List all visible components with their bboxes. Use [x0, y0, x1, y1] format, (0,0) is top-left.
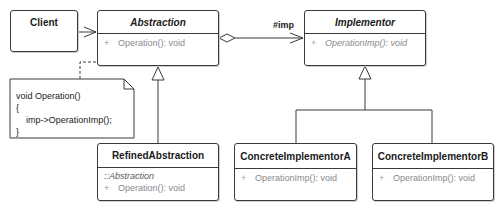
class-name: Implementor	[305, 11, 425, 34]
aggregation-diamond-icon	[219, 34, 235, 42]
class-members: ::Abstraction +Operation(): void	[98, 168, 218, 197]
visibility-public: +	[241, 172, 255, 184]
member-operation-imp: +OperationImp(): void	[241, 172, 350, 184]
class-members: +OperationImp(): void	[305, 34, 425, 52]
note-line: void Operation()	[16, 90, 112, 102]
member-operation: +Operation(): void	[104, 182, 212, 194]
member-signature: OperationImp(): void	[325, 38, 407, 48]
class-name: ConcreteImplementorA	[235, 144, 356, 169]
note-text: void Operation() { imp->OperationImp(); …	[16, 90, 112, 138]
class-concrete-implementor-a[interactable]: ConcreteImplementorA +OperationImp(): vo…	[234, 143, 357, 201]
class-members: +Operation(): void	[98, 34, 218, 52]
generalization-concrete-implementors	[296, 66, 432, 143]
member-operation-imp: +OperationImp(): void	[379, 172, 487, 184]
class-refined-abstraction[interactable]: RefinedAbstraction ::Abstraction +Operat…	[97, 143, 219, 201]
inherited-from-label: ::Abstraction	[104, 170, 212, 182]
member-signature: Operation(): void	[118, 183, 185, 193]
visibility-public: +	[104, 37, 118, 49]
note-anchor-line	[80, 62, 96, 79]
note-line: {	[16, 102, 112, 114]
hollow-triangle-icon	[359, 66, 371, 79]
class-name: Client	[11, 11, 77, 51]
role-label-imp: #imp	[273, 20, 294, 30]
class-members: +OperationImp(): void	[373, 169, 493, 187]
note-line: }	[16, 126, 112, 138]
class-name: RefinedAbstraction	[98, 144, 218, 168]
uml-diagram-canvas: #imp Client Abstraction +Operation(): vo…	[0, 0, 501, 209]
note-line: imp->OperationImp();	[16, 114, 112, 126]
visibility-public: +	[311, 37, 325, 49]
aggregation-abstraction-implementor	[219, 33, 303, 43]
hollow-triangle-icon	[152, 67, 164, 80]
class-concrete-implementor-b[interactable]: ConcreteImplementorB +OperationImp(): vo…	[372, 143, 494, 201]
member-signature: OperationImp(): void	[393, 173, 475, 183]
association-client-abstraction	[78, 27, 96, 37]
visibility-public: +	[379, 172, 393, 184]
generalization-refined-abstraction	[152, 67, 164, 143]
member-signature: Operation(): void	[118, 38, 185, 48]
class-name: ConcreteImplementorB	[373, 144, 493, 169]
class-abstraction[interactable]: Abstraction +Operation(): void	[97, 10, 219, 66]
class-implementor[interactable]: Implementor +OperationImp(): void	[304, 10, 426, 66]
class-members: +OperationImp(): void	[235, 169, 356, 187]
member-signature: OperationImp(): void	[255, 173, 337, 183]
member-operation-imp: +OperationImp(): void	[311, 37, 419, 49]
class-client[interactable]: Client	[10, 10, 78, 52]
class-name: Abstraction	[98, 11, 218, 34]
member-operation: +Operation(): void	[104, 37, 212, 49]
visibility-public: +	[104, 182, 118, 194]
